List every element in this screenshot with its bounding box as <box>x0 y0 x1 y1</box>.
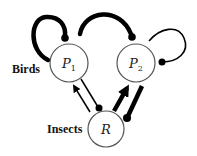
node-p1: P1 <box>50 44 88 82</box>
node-r-label: R <box>100 122 111 137</box>
interaction-diagram: P1 P2 R Birds Insects <box>0 0 197 156</box>
node-p2: P2 <box>117 44 155 82</box>
edge-p1-to-r <box>81 79 103 112</box>
insects-label: Insects <box>47 122 83 136</box>
node-r: R <box>88 111 124 147</box>
edge-r-to-p2 <box>114 88 127 111</box>
dot-head-icon <box>128 33 136 41</box>
dot-head-icon <box>96 105 103 112</box>
dot-head-icon <box>123 114 131 122</box>
dot-head-icon <box>159 59 166 66</box>
birds-label: Birds <box>12 62 40 76</box>
dot-head-icon <box>61 34 69 42</box>
edge-p1-to-p2 <box>80 14 136 40</box>
